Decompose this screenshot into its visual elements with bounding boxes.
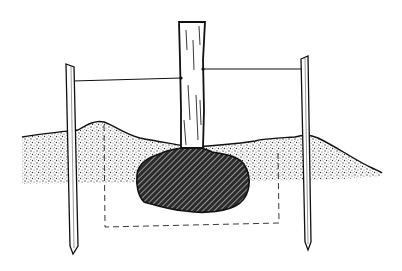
root-ball: [137, 147, 249, 212]
left-guy-wire: [72, 76, 183, 81]
tree-staking-illustration: [0, 0, 402, 271]
right-stake: [301, 56, 311, 250]
right-guy-wire: [201, 67, 302, 70]
left-stake: [66, 64, 78, 254]
tree-trunk: [179, 22, 205, 148]
